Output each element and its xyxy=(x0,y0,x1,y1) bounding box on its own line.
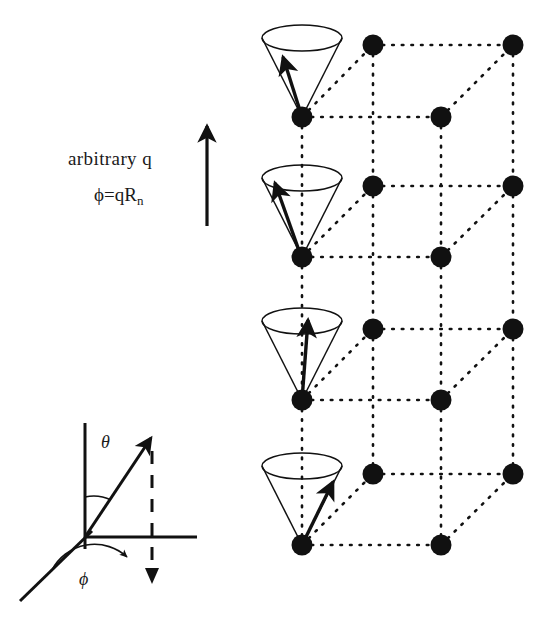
lattice-sites xyxy=(292,35,524,556)
precession-cone-1 xyxy=(262,25,342,117)
bond-depth-left xyxy=(302,329,373,400)
bond-depth-left xyxy=(302,474,373,545)
lattice-dot xyxy=(292,247,313,268)
spin-arrows xyxy=(275,57,333,545)
r-vector-arrow xyxy=(85,438,151,537)
lattice-dot xyxy=(503,319,524,340)
lattice-dot xyxy=(363,35,384,56)
bond-depth-left xyxy=(302,186,373,257)
bond-depth-right xyxy=(441,474,513,545)
bond-depth-right xyxy=(441,186,513,257)
spin-arrow-3 xyxy=(302,320,308,400)
theta-arc xyxy=(85,496,111,500)
lattice-dot xyxy=(363,176,384,197)
projection-arrowhead xyxy=(145,568,159,584)
figure-canvas: arbitrary q ϕ=qRn θ ϕ xyxy=(0,0,550,623)
bond-depth-right xyxy=(441,45,513,117)
lattice-dot xyxy=(503,464,524,485)
lattice-dot xyxy=(363,319,384,340)
lattice-dot xyxy=(292,535,313,556)
cone-rim-ellipse xyxy=(262,308,342,334)
lattice-dot xyxy=(503,35,524,56)
bond-depth-right xyxy=(441,329,513,400)
x-axis xyxy=(20,531,92,601)
spin-wave-lattice-diagram xyxy=(0,0,550,623)
arbitrary-q-label: arbitrary q xyxy=(68,148,152,170)
lattice-dot xyxy=(431,535,452,556)
lattice-dot xyxy=(431,247,452,268)
theta-label: θ xyxy=(101,432,110,453)
lattice-dot xyxy=(503,176,524,197)
lattice-dot xyxy=(292,107,313,128)
phi-definition-label: ϕ=qRn xyxy=(94,184,143,209)
phi-definition-main: ϕ=qR xyxy=(94,184,137,205)
lattice-dot xyxy=(431,107,452,128)
lattice-dot xyxy=(431,390,452,411)
lattice-dot xyxy=(363,464,384,485)
lattice-dot xyxy=(292,390,313,411)
phi-label: ϕ xyxy=(79,569,88,590)
cone-rim-ellipse xyxy=(262,25,342,51)
spin-arrow-4 xyxy=(302,482,333,545)
bond-depth-left xyxy=(302,45,373,117)
phi-definition-subscript: n xyxy=(137,193,144,208)
lattice-bonds xyxy=(302,45,513,545)
